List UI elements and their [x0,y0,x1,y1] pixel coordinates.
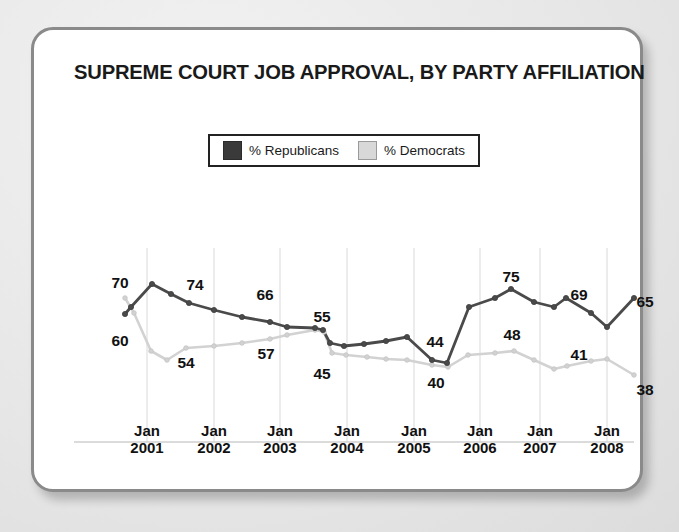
legend-label-republicans: % Republicans [249,143,339,158]
data-label: 57 [257,345,274,363]
data-point-democrats [365,355,370,360]
data-point-republicans [128,304,133,309]
xtick-2002: Jan2002 [186,422,242,456]
xtick-year: 2003 [252,439,308,456]
data-point-republicans [404,334,409,339]
data-label: 44 [426,333,443,351]
data-point-democrats [344,353,349,358]
data-label: 65 [636,293,653,311]
data-point-democrats [212,344,217,349]
data-point-republicans [508,286,513,291]
data-point-democrats [322,330,327,335]
xtick-2003: Jan2003 [252,422,308,456]
data-label: 69 [570,286,587,304]
data-point-democrats [132,311,137,316]
data-label: 75 [502,268,519,286]
data-point-democrats [532,358,537,363]
data-point-republicans [383,338,388,343]
data-point-democrats [446,365,451,370]
xtick-month: Jan [319,422,375,439]
xtick-year: 2004 [319,439,375,456]
data-point-democrats [330,351,335,356]
data-label: 38 [636,381,653,399]
data-label: 66 [256,286,273,304]
data-label: 48 [503,326,520,344]
data-point-democrats [123,296,128,301]
data-point-democrats [149,349,154,354]
data-point-democrats [466,353,471,358]
data-point-republicans [320,327,325,332]
data-point-democrats [165,358,170,363]
data-point-republicans [604,324,609,329]
series-markers-republicans [122,281,636,365]
data-point-republicans [267,319,272,324]
data-point-republicans [327,340,332,345]
data-point-republicans [361,341,366,346]
data-point-republicans [149,281,154,286]
xtick-2008: Jan2008 [579,422,635,456]
xtick-month: Jan [119,422,175,439]
chart-gridlines [147,248,607,442]
xtick-month: Jan [386,422,442,439]
page-title: SUPREME COURT JOB APPROVAL, BY PARTY AFF… [74,60,600,84]
data-point-republicans [341,343,346,348]
xtick-year: 2006 [452,439,508,456]
legend-swatch-democrats-icon [358,141,377,160]
series-markers-democrats [123,296,637,378]
xtick-2006: Jan2006 [452,422,508,456]
data-label: 41 [570,346,587,364]
data-label: 45 [313,365,330,383]
legend-item-democrats[interactable]: % Democrats [358,141,465,160]
data-label: 70 [111,274,128,292]
legend-label-democrats: % Democrats [384,143,465,158]
data-point-republicans [122,311,127,316]
xtick-2007: Jan2007 [512,422,568,456]
data-point-republicans [429,357,434,362]
xtick-year: 2002 [186,439,242,456]
data-point-republicans [531,299,536,304]
data-label: 55 [313,308,330,326]
chart-x-tick-labels: Jan2001Jan2002Jan2003Jan2004Jan2005Jan20… [34,422,646,482]
xtick-month: Jan [512,422,568,439]
data-point-republicans [186,300,191,305]
xtick-2005: Jan2005 [386,422,442,456]
data-label: 54 [177,354,194,372]
data-point-republicans [444,360,449,365]
data-point-republicans [211,307,216,312]
data-point-republicans [492,295,497,300]
data-point-republicans [168,291,173,296]
series-line-democrats [125,298,634,375]
data-point-republicans [312,325,317,330]
xtick-year: 2001 [119,439,175,456]
xtick-month: Jan [186,422,242,439]
data-label: 40 [427,374,444,392]
data-point-republicans [563,295,568,300]
data-point-democrats [285,333,290,338]
data-point-republicans [239,314,244,319]
data-point-democrats [405,358,410,363]
xtick-year: 2008 [579,439,635,456]
xtick-year: 2007 [512,439,568,456]
series-line-republicans [125,284,634,363]
data-point-republicans [551,304,556,309]
xtick-2004: Jan2004 [319,422,375,456]
data-point-republicans [284,324,289,329]
legend-swatch-republicans-icon [223,141,242,160]
chart-legend: % Republicans % Democrats [208,134,480,167]
data-label: 60 [111,332,128,350]
data-point-democrats [512,349,517,354]
data-point-democrats [589,359,594,364]
data-point-democrats [184,346,189,351]
data-point-democrats [313,328,318,333]
data-point-democrats [552,367,557,372]
data-point-democrats [605,357,610,362]
chart-card: SUPREME COURT JOB APPROVAL, BY PARTY AFF… [31,27,643,492]
xtick-2001: Jan2001 [119,422,175,456]
xtick-month: Jan [579,422,635,439]
xtick-year: 2005 [386,439,442,456]
data-point-democrats [632,373,637,378]
legend-item-republicans[interactable]: % Republicans [223,141,339,160]
data-point-republicans [466,304,471,309]
data-point-democrats [493,351,498,356]
data-point-democrats [565,364,570,369]
